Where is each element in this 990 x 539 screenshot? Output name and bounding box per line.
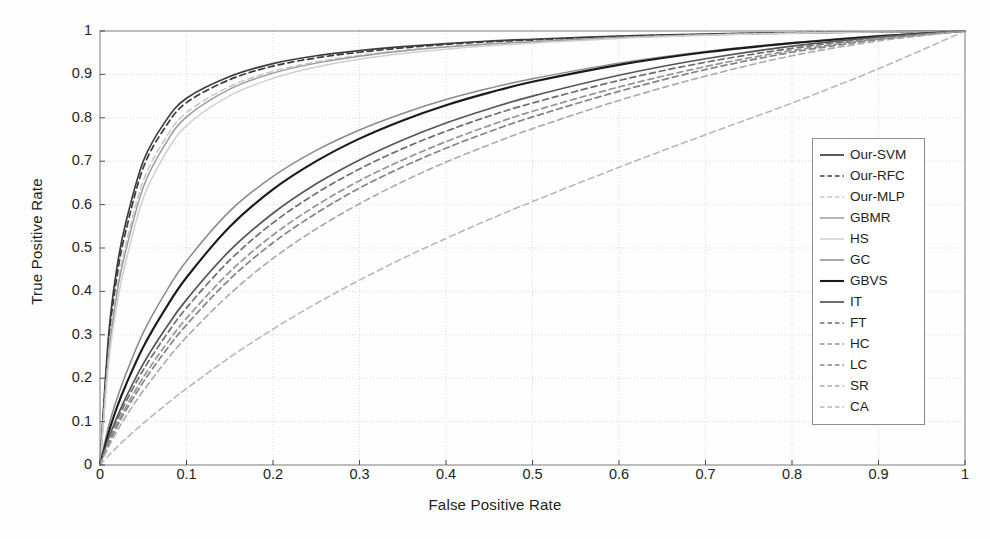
- legend-item-label: GBMR: [850, 211, 891, 225]
- x-tick-label: 0.4: [416, 466, 476, 482]
- y-axis-title: True Positive Rate: [28, 122, 45, 362]
- legend-item-label: FT: [850, 316, 867, 330]
- legend-item-lc[interactable]: LC: [813, 354, 924, 375]
- legend-item-our-mlp[interactable]: Our-MLP: [813, 186, 924, 207]
- legend-item-label: IT: [850, 295, 862, 309]
- legend-item-gbmr[interactable]: GBMR: [813, 207, 924, 228]
- legend-item-label: CA: [850, 400, 869, 414]
- legend-item-gbvs[interactable]: GBVS: [813, 270, 924, 291]
- y-tick-label: 1: [46, 22, 92, 38]
- legend-item-it[interactable]: IT: [813, 291, 924, 312]
- legend-item-label: Our-SVM: [850, 148, 906, 162]
- x-tick-label: 0.1: [157, 466, 217, 482]
- legend-item-label: HC: [850, 337, 870, 351]
- legend-item-sr[interactable]: SR: [813, 375, 924, 396]
- x-tick-label: 0.6: [589, 466, 649, 482]
- y-tick-label: 0.1: [46, 413, 92, 429]
- legend-item-label: GBVS: [850, 274, 888, 288]
- x-tick-label: 0.5: [503, 466, 563, 482]
- legend-item-hc[interactable]: HC: [813, 333, 924, 354]
- x-tick-label: 0.3: [330, 466, 390, 482]
- y-tick-label: 0.5: [46, 239, 92, 255]
- legend-item-label: GC: [850, 253, 870, 267]
- x-tick-label: 0.7: [676, 466, 736, 482]
- legend-line-sample-icon: [819, 339, 845, 349]
- legend-line-sample-icon: [819, 318, 845, 328]
- legend-item-hs[interactable]: HS: [813, 228, 924, 249]
- y-tick-label: 0.7: [46, 152, 92, 168]
- y-tick-label: 0.2: [46, 369, 92, 385]
- x-axis-title: False Positive Rate: [0, 496, 990, 513]
- legend-line-sample-icon: [819, 171, 845, 181]
- legend-item-ft[interactable]: FT: [813, 312, 924, 333]
- legend-item-ca[interactable]: CA: [813, 396, 924, 417]
- legend-line-sample-icon: [819, 297, 845, 307]
- x-tick-label: 0.8: [762, 466, 822, 482]
- legend-line-sample-icon: [819, 381, 845, 391]
- x-tick-label: 0.2: [243, 466, 303, 482]
- x-tick-label: 1: [935, 466, 990, 482]
- legend-item-our-rfc[interactable]: Our-RFC: [813, 165, 924, 186]
- y-tick-label: 0.9: [46, 65, 92, 81]
- legend-item-label: Our-MLP: [850, 190, 905, 204]
- y-tick-label: 0: [46, 456, 92, 472]
- legend-item-our-svm[interactable]: Our-SVM: [813, 144, 924, 165]
- legend-line-sample-icon: [819, 213, 845, 223]
- legend-item-label: HS: [850, 232, 869, 246]
- legend-line-sample-icon: [819, 192, 845, 202]
- legend-line-sample-icon: [819, 234, 845, 244]
- legend-item-label: SR: [850, 379, 869, 393]
- legend: Our-SVMOur-RFCOur-MLPGBMRHSGCGBVSITFTHCL…: [812, 138, 925, 425]
- x-tick-label: 0.9: [849, 466, 909, 482]
- roc-chart-figure: False Positive Rate True Positive Rate 0…: [0, 0, 990, 539]
- y-tick-label: 0.8: [46, 109, 92, 125]
- legend-line-sample-icon: [819, 360, 845, 370]
- legend-item-label: LC: [850, 358, 867, 372]
- legend-line-sample-icon: [819, 255, 845, 265]
- y-tick-label: 0.3: [46, 326, 92, 342]
- legend-item-gc[interactable]: GC: [813, 249, 924, 270]
- legend-item-label: Our-RFC: [850, 169, 905, 183]
- legend-line-sample-icon: [819, 150, 845, 160]
- legend-line-sample-icon: [819, 276, 845, 286]
- legend-line-sample-icon: [819, 402, 845, 412]
- y-tick-label: 0.6: [46, 196, 92, 212]
- y-tick-label: 0.4: [46, 282, 92, 298]
